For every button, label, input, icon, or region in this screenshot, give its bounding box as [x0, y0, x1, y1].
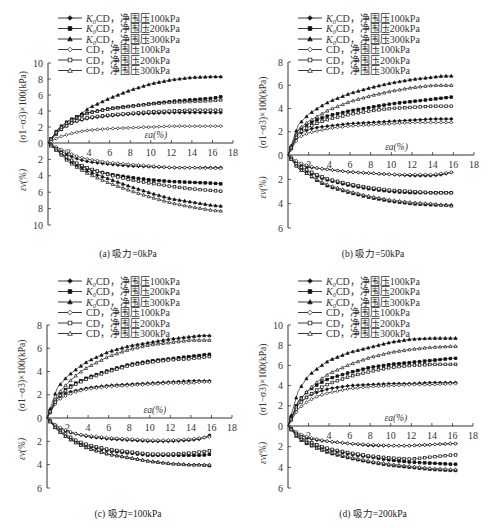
y-axis-label-lower: εv(%) — [258, 442, 269, 464]
svg-text:10: 10 — [146, 147, 156, 158]
x-axis-label: εa(%) — [145, 130, 168, 141]
x-axis-label: εa(%) — [385, 142, 408, 153]
svg-text:4: 4 — [38, 106, 43, 117]
svg-text:10: 10 — [145, 422, 155, 433]
svg-text:16: 16 — [448, 159, 458, 170]
svg-text:0: 0 — [38, 138, 43, 149]
svg-text:4: 4 — [38, 170, 43, 181]
svg-text:16: 16 — [207, 147, 217, 158]
svg-text:8: 8 — [278, 340, 283, 351]
svg-text:14: 14 — [427, 430, 437, 441]
svg-text:4: 4 — [278, 380, 283, 391]
series-2 — [288, 74, 453, 206]
legend-b: K0CD，净围压100kPaK0CD，净围压200kPaK0CD，净围压300k… — [298, 12, 420, 77]
y-axis-label-upper: (σ1−σ3)×100(kPa) — [258, 344, 269, 416]
svg-text:8: 8 — [37, 320, 42, 331]
svg-text:8: 8 — [368, 159, 373, 170]
svg-text:2: 2 — [278, 400, 283, 411]
svg-text:4: 4 — [278, 462, 283, 473]
x-axis-label: εa(%) — [385, 413, 408, 424]
svg-text:6: 6 — [278, 483, 283, 494]
svg-text:CD，净围压200kPa: CD，净围压200kPa — [326, 317, 410, 329]
series-5 — [288, 84, 453, 207]
svg-text:6: 6 — [348, 159, 353, 170]
svg-text:10: 10 — [386, 430, 396, 441]
svg-text:12: 12 — [166, 147, 176, 158]
series-5 — [288, 345, 458, 471]
svg-text:8: 8 — [278, 57, 283, 68]
y-axis-label-upper: (σ1−σ3)×100(kPa) — [17, 340, 28, 412]
caption-b: (b) 吸力=50kPa — [273, 246, 473, 260]
svg-text:4: 4 — [278, 198, 283, 209]
x-axis-label: εa(%) — [144, 405, 167, 416]
svg-text:2: 2 — [38, 154, 43, 165]
chart-panel-c: 0246824624681012141618(σ1−σ3)×100(kPa)εv… — [17, 275, 237, 494]
svg-text:6: 6 — [37, 343, 42, 354]
svg-text:6: 6 — [106, 422, 111, 433]
svg-text:6: 6 — [278, 360, 283, 371]
svg-text:2: 2 — [38, 122, 43, 133]
svg-text:2: 2 — [278, 441, 283, 452]
svg-text:8: 8 — [38, 203, 43, 214]
caption-d: (d) 吸力=200kPa — [273, 506, 473, 520]
svg-text:2: 2 — [278, 126, 283, 137]
y-axis-label-upper: (σ1−σ3)×100(kPa) — [258, 77, 269, 149]
svg-text:0: 0 — [37, 413, 42, 424]
svg-text:14: 14 — [187, 147, 197, 158]
svg-text:12: 12 — [165, 422, 175, 433]
legend-d: K0CD，净围压100kPaK0CD，净围压200kPaK0CD，净围压300k… — [298, 275, 420, 340]
svg-text:10: 10 — [386, 159, 396, 170]
svg-text:CD，净围压200kPa: CD，净围压200kPa — [86, 317, 170, 329]
svg-text:6: 6 — [38, 187, 43, 198]
svg-text:8: 8 — [127, 422, 132, 433]
series-2 — [47, 334, 211, 467]
svg-text:8: 8 — [368, 430, 373, 441]
svg-text:4: 4 — [87, 147, 92, 158]
svg-text:10: 10 — [33, 220, 43, 231]
figure-canvas: 024681024681024681012141618(σ1−σ3)×100(k… — [0, 0, 491, 528]
svg-text:2: 2 — [37, 436, 42, 447]
svg-text:6: 6 — [347, 430, 352, 441]
svg-text:CD，净围压100kPa: CD，净围压100kPa — [326, 43, 410, 55]
svg-text:6: 6 — [278, 223, 283, 234]
svg-text:14: 14 — [186, 422, 196, 433]
svg-text:CD，净围压100kPa: CD，净围压100kPa — [326, 306, 410, 318]
y-axis-label-lower: εv(%) — [18, 169, 29, 191]
svg-text:18: 18 — [469, 159, 479, 170]
svg-text:8: 8 — [128, 147, 133, 158]
legend-c: K0CD，净围压100kPaK0CD，净围压200kPaK0CD，净围压300k… — [58, 275, 180, 340]
series-2 — [48, 75, 223, 207]
svg-text:0: 0 — [278, 421, 283, 432]
caption-c: (c) 吸力=100kPa — [28, 506, 228, 520]
series-1 — [288, 357, 458, 465]
svg-text:18: 18 — [227, 422, 237, 433]
svg-text:CD，净围压300kPa: CD，净围压300kPa — [86, 64, 170, 76]
svg-text:6: 6 — [37, 483, 42, 494]
chart-panel-b: 0246824624681012141618(σ1−σ3)×100(kPa)εv… — [258, 12, 479, 234]
svg-text:6: 6 — [38, 90, 43, 101]
svg-text:6: 6 — [278, 80, 283, 91]
svg-text:2: 2 — [278, 174, 283, 185]
chart-panel-a: 024681024681024681012141618(σ1−σ3)×100(k… — [18, 12, 238, 231]
svg-text:0: 0 — [278, 150, 283, 161]
svg-text:16: 16 — [206, 422, 216, 433]
svg-text:CD，净围压300kPa: CD，净围压300kPa — [326, 327, 410, 339]
svg-text:CD，净围压300kPa: CD，净围压300kPa — [86, 327, 170, 339]
svg-text:14: 14 — [428, 159, 438, 170]
svg-text:10: 10 — [273, 320, 283, 331]
series-4 — [288, 105, 453, 194]
svg-text:6: 6 — [107, 147, 112, 158]
svg-text:4: 4 — [37, 366, 42, 377]
svg-text:12: 12 — [407, 159, 417, 170]
svg-text:4: 4 — [278, 103, 283, 114]
svg-text:18: 18 — [228, 147, 238, 158]
y-axis-label-lower: εv(%) — [17, 438, 28, 460]
svg-text:CD，净围压100kPa: CD，净围压100kPa — [86, 306, 170, 318]
svg-text:CD，净围压200kPa: CD，净围压200kPa — [326, 54, 410, 66]
svg-text:CD，净围压200kPa: CD，净围压200kPa — [86, 54, 170, 66]
svg-text:4: 4 — [86, 422, 91, 433]
svg-text:18: 18 — [468, 430, 478, 441]
caption-a: (a) 吸力=0kPa — [28, 246, 228, 260]
svg-text:10: 10 — [33, 58, 43, 69]
series-5 — [47, 339, 211, 466]
